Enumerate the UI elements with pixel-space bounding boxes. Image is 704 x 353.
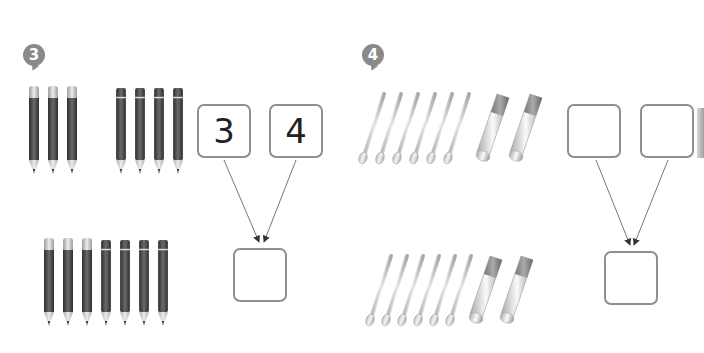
- sum-box[interactable]: [604, 251, 658, 305]
- arrow-right-to-sum: [634, 160, 668, 245]
- cotton-swabs-bottom-group: [364, 256, 533, 327]
- pencils-bottom-group: [44, 238, 168, 326]
- arrow-left-to-sum: [224, 160, 259, 242]
- arrow-left-to-sum: [596, 160, 630, 245]
- page-edge-shadow: [697, 108, 704, 158]
- arrow-right-to-sum: [264, 160, 296, 242]
- addend-box-right[interactable]: 4: [269, 104, 323, 158]
- pencils-with-eraser-group: [29, 86, 77, 174]
- illustration-layer: [0, 0, 704, 353]
- tubes-group: [475, 94, 542, 163]
- addend-box-right[interactable]: [640, 104, 694, 158]
- cotton-swabs-group: [357, 94, 469, 165]
- pencils-without-eraser-group: [116, 88, 183, 174]
- sum-box[interactable]: [233, 248, 287, 302]
- addend-box-left[interactable]: [567, 104, 621, 158]
- addend-box-left[interactable]: 3: [197, 104, 251, 158]
